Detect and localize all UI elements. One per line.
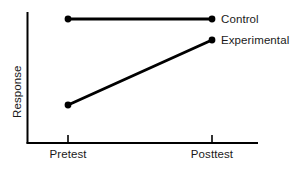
series-point-control-pretest xyxy=(65,16,72,23)
x-tick-label-posttest: Posttest xyxy=(191,148,233,160)
y-axis-title: Response xyxy=(11,0,25,118)
line-chart: Response Pretest Posttest Control Experi… xyxy=(0,0,294,170)
series-label-control: Control xyxy=(221,13,259,25)
series-line-experimental xyxy=(68,40,212,105)
series-point-experimental-posttest xyxy=(209,37,216,44)
series-point-control-posttest xyxy=(209,16,216,23)
x-tick-label-pretest: Pretest xyxy=(49,148,86,160)
series-point-experimental-pretest xyxy=(65,102,72,109)
chart-canvas xyxy=(0,0,294,170)
series-label-experimental: Experimental xyxy=(221,34,289,46)
